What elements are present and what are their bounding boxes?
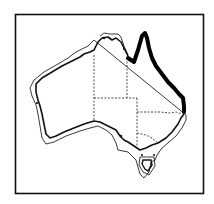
city-dot-darwin: [103, 37, 106, 40]
border-nsw-vic: [137, 133, 158, 143]
city-dot-melbourne: [141, 154, 143, 156]
city-dot-perth: [36, 102, 38, 104]
map-frame: [16, 15, 204, 194]
australia-map-figure: [0, 0, 214, 204]
border-qld-nsw: [137, 112, 182, 114]
city-dot-east: [153, 154, 155, 156]
map-canvas: [0, 0, 214, 204]
city-dot-gulf: [123, 48, 125, 50]
highlighted-coastline-queensland: [128, 33, 184, 112]
coastline-outer-outline: [30, 33, 186, 178]
city-dot-adelaide: [120, 135, 122, 137]
